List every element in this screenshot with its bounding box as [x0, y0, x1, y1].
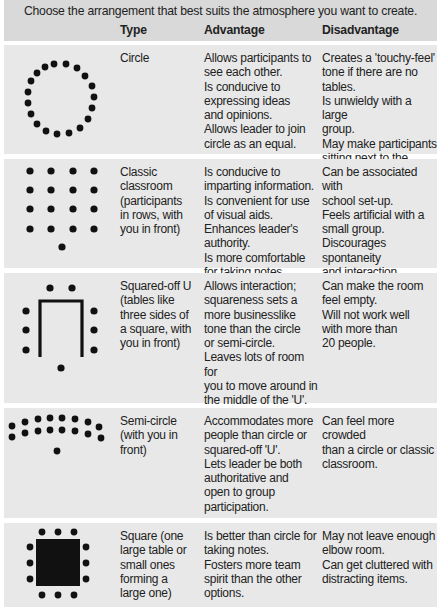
table-row-u-shape: Squared-off U (tables like three sides o… — [4, 273, 437, 403]
table-row-classroom: Classic classroom (participants in rows,… — [4, 159, 437, 268]
advantage-cell: Allows participants to see each other. I… — [204, 51, 319, 151]
disadvantage-cell: May not leave enough elbow room. Can get… — [322, 529, 440, 586]
disadvantage-cell: Can feel more crowded than a circle or c… — [322, 414, 440, 471]
column-header-type: Type — [120, 23, 147, 37]
table-row-semi-circle: Semi-circle (with you in front) Accommod… — [4, 408, 437, 518]
column-header-disadvantage: Disadvantage — [322, 23, 399, 37]
advantage-cell: Is better than circle for taking notes. … — [204, 529, 319, 600]
type-cell: Squared-off U (tables like three sides o… — [120, 279, 200, 350]
classroom-arrangement-icon — [4, 159, 116, 268]
disadvantage-cell: Can make the room feel empty. Will not w… — [322, 279, 440, 350]
table-row-square: Square (one large table or small ones fo… — [4, 523, 437, 607]
circle-arrangement-icon — [4, 45, 116, 154]
u-shape-arrangement-icon — [4, 273, 116, 403]
semi-circle-arrangement-icon — [4, 408, 116, 518]
type-cell: Square (one large table or small ones fo… — [120, 529, 200, 600]
type-cell: Classic classroom (participants in rows,… — [120, 165, 200, 236]
type-cell: Semi-circle (with you in front) — [120, 414, 200, 457]
intro-text: Choose the arrangement that best suits t… — [4, 4, 437, 18]
column-header-advantage: Advantage — [204, 23, 265, 37]
table-header: Choose the arrangement that best suits t… — [4, 0, 437, 41]
square-table-arrangement-icon — [4, 523, 116, 607]
seating-arrangements-table: Choose the arrangement that best suits t… — [0, 0, 437, 607]
type-cell: Circle — [120, 51, 200, 65]
table-row-circle: Circle Allows participants to see each o… — [4, 45, 437, 154]
advantage-cell: Is conducive to imparting information. I… — [204, 165, 319, 279]
advantage-cell: Accommodates more people than circle or … — [204, 414, 319, 514]
